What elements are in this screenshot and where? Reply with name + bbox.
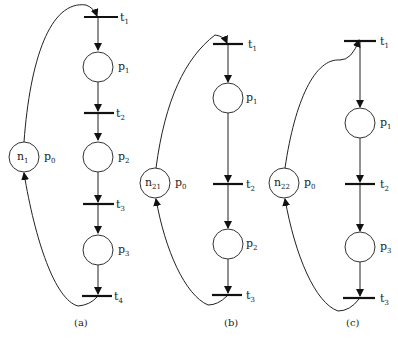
transition-label: t1 xyxy=(120,11,129,26)
transition-label: t3 xyxy=(246,289,255,304)
transition-label: t3 xyxy=(380,292,389,307)
place-label: p3 xyxy=(380,240,392,255)
place-label: p3 xyxy=(118,243,130,258)
caption-b: (b) xyxy=(224,317,238,328)
caption-a: (a) xyxy=(74,317,88,328)
place-label: p1 xyxy=(118,60,130,75)
transition-label: t2 xyxy=(380,178,389,193)
petri-net-figure: t1 t2 t3 t4 p1 p2 p3 n1 p0 (a) t1 t2 t3 … xyxy=(0,0,398,340)
place-label: p1 xyxy=(246,91,258,106)
feedback-place-label: p0 xyxy=(304,176,316,191)
diagram-a: t1 t2 t3 t4 p1 p2 p3 n1 p0 (a) xyxy=(9,5,130,328)
feedback-place-label: p0 xyxy=(44,150,56,165)
place-circle xyxy=(83,52,113,82)
arc-t4-n1 xyxy=(24,173,97,306)
transition-label: t1 xyxy=(248,38,257,53)
arc-n22-t1 xyxy=(285,40,359,168)
place-circle xyxy=(83,235,113,265)
place-circle xyxy=(345,108,375,138)
feedback-place-label: p0 xyxy=(175,176,187,191)
diagram-b: t1 t2 t3 p1 p2 n21 p0 (b) xyxy=(140,35,258,328)
place-circle xyxy=(345,232,375,262)
transition-label: t2 xyxy=(246,178,255,193)
place-label: p2 xyxy=(246,237,258,252)
transition-label: t1 xyxy=(380,35,389,50)
place-label: p1 xyxy=(380,116,392,131)
place-label: p2 xyxy=(118,150,130,165)
transition-label: t3 xyxy=(116,198,125,213)
place-circle xyxy=(213,83,243,113)
place-circle xyxy=(83,142,113,172)
transition-label: t4 xyxy=(114,290,123,305)
place-circle xyxy=(213,229,243,259)
diagram-c: t1 t2 t3 p1 p3 n22 p0 (c) xyxy=(269,35,392,328)
transition-label: t2 xyxy=(116,107,125,122)
caption-c: (c) xyxy=(346,317,360,328)
